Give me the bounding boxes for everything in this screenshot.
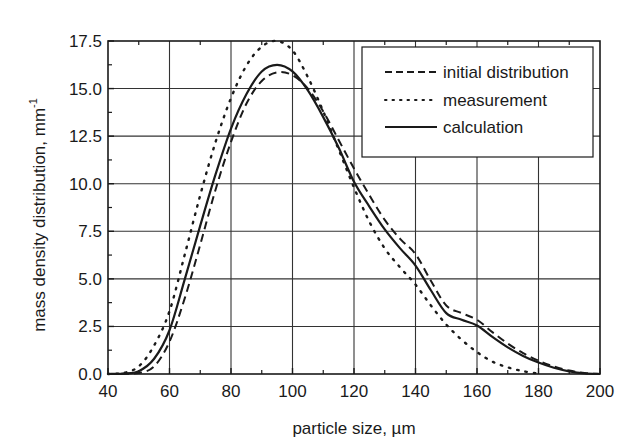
y-axis-title-superscript: -1 <box>27 98 39 108</box>
y-tick-label: 0.0 <box>78 365 102 384</box>
x-tick-label: 160 <box>463 382 491 401</box>
legend-label-initial: initial distribution <box>443 63 569 82</box>
y-axis-title-group: mass density distribution, mm-1 <box>27 98 49 332</box>
chart: 406080100120140160180200 0.02.55.07.510.… <box>0 0 640 446</box>
y-tick-label: 2.5 <box>78 317 102 336</box>
x-tick-label: 140 <box>401 382 429 401</box>
y-tick-label: 15.0 <box>69 80 102 99</box>
x-tick-label: 40 <box>99 382 118 401</box>
y-tick-label: 7.5 <box>78 222 102 241</box>
y-axis-title-main: mass density distribution, mm <box>30 108 49 332</box>
y-tick-label: 17.5 <box>69 32 102 51</box>
legend-label-calculation: calculation <box>443 118 523 137</box>
y-tick-label: 5.0 <box>78 270 102 289</box>
x-tick-label: 60 <box>160 382 179 401</box>
x-tick-label: 200 <box>586 382 614 401</box>
legend-label-measurement: measurement <box>443 91 547 110</box>
x-tick-label: 100 <box>278 382 306 401</box>
y-tick-label: 10.0 <box>69 175 102 194</box>
x-axis-ticks: 406080100120140160180200 <box>99 368 615 401</box>
x-tick-label: 120 <box>340 382 368 401</box>
y-tick-label: 12.5 <box>69 127 102 146</box>
legend: initial distribution measurement calcula… <box>362 47 593 157</box>
x-tick-label: 80 <box>222 382 241 401</box>
y-axis-title: mass density distribution, mm-1 <box>27 98 49 332</box>
x-tick-label: 180 <box>524 382 552 401</box>
x-axis-title: particle size, µm <box>292 419 415 438</box>
